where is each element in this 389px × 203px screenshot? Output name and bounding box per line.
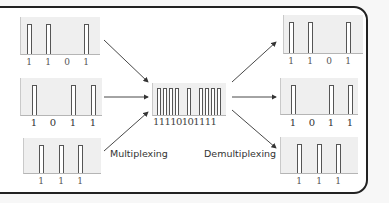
arrow-out3 — [232, 110, 276, 148]
arrow-out1 — [232, 42, 276, 82]
arrows — [0, 0, 389, 203]
arrow-in1 — [104, 40, 148, 82]
arrow-in3 — [104, 112, 148, 151]
